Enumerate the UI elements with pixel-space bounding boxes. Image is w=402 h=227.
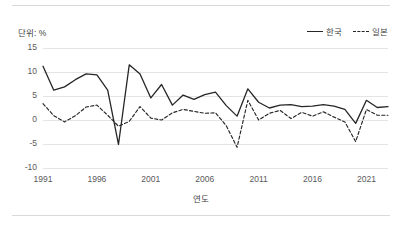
ytick-label: 10 [11, 66, 37, 76]
ytick-label: -10 [11, 162, 37, 172]
xtick-label: 2016 [293, 174, 333, 184]
xtick-label: 1991 [23, 174, 63, 184]
series-line-korea [43, 65, 388, 145]
xaxis-title: 연도 [0, 192, 402, 204]
ytick-label: 0 [11, 114, 37, 124]
chart-container: 단위: % 한국 일본 151050-5-1019911996200120062… [0, 0, 402, 227]
ytick-label: 15 [11, 42, 37, 52]
xtick-label: 2021 [346, 174, 386, 184]
xtick-label: 2001 [131, 174, 171, 184]
xtick-label: 1996 [77, 174, 117, 184]
ytick-label: -5 [11, 138, 37, 148]
ytick-label: 5 [11, 90, 37, 100]
xtick-label: 2006 [185, 174, 225, 184]
xtick-label: 2011 [239, 174, 279, 184]
